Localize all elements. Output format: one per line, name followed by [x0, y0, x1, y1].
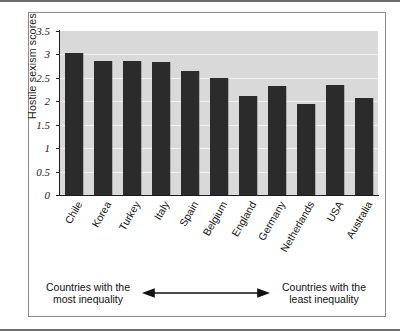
- plot-background: [60, 31, 378, 195]
- double-headed-arrow-icon: [142, 287, 270, 299]
- y-axis-line: [59, 30, 60, 196]
- bar-series: [60, 31, 378, 195]
- x-tick-label: Belgium: [200, 199, 229, 238]
- bar-korea: [94, 61, 112, 195]
- bar-england: [239, 96, 257, 195]
- x-tick-cell: England: [239, 197, 257, 269]
- x-tick-label: Chile: [62, 199, 84, 226]
- x-tick-label: Australia: [343, 199, 374, 240]
- x-tick-cell: Turkey: [123, 197, 141, 269]
- x-tick-label: Germany: [255, 199, 287, 242]
- x-tick-cell: Chile: [65, 197, 83, 269]
- x-tick-label: Turkey: [116, 199, 142, 232]
- bar-belgium: [210, 78, 228, 195]
- annotation-left-line2: most inequality: [40, 293, 136, 306]
- annotation-left-line1: Countries with the: [40, 281, 136, 294]
- y-tick-label: 0.5: [36, 166, 50, 178]
- bar-chile: [65, 53, 83, 195]
- x-tick-cell: Germany: [268, 197, 286, 269]
- x-tick-label: Spain: [177, 199, 201, 228]
- bar-netherlands: [297, 104, 315, 195]
- x-tick-cell: Italy: [152, 197, 170, 269]
- y-tick-label: 1.5: [36, 119, 50, 131]
- annotation-right-line1: Countries with the: [276, 281, 372, 294]
- bar-usa: [326, 85, 344, 195]
- bar-turkey: [123, 61, 141, 195]
- x-axis-labels: ChileKoreaTurkeyItalySpainBelgiumEngland…: [60, 197, 378, 269]
- y-tick-label: 0: [45, 189, 51, 201]
- annotation-left: Countries with the most inequality: [40, 281, 136, 306]
- y-tick-label: 3.5: [36, 25, 50, 37]
- y-tick-label: 2.5: [36, 72, 50, 84]
- inequality-annotation: Countries with the most inequality Count…: [40, 276, 372, 310]
- x-tick-label: Italy: [152, 199, 172, 222]
- plot-area: [60, 31, 378, 195]
- y-tick-label: 1: [45, 142, 51, 154]
- y-tick-label: 3: [45, 48, 51, 60]
- bar-australia: [355, 98, 373, 195]
- annotation-right-line2: least inequality: [276, 293, 372, 306]
- x-tick-label: England: [229, 199, 259, 238]
- x-tick-cell: Korea: [94, 197, 112, 269]
- bar-spain: [181, 71, 199, 195]
- x-tick-cell: Belgium: [210, 197, 228, 269]
- x-tick-cell: USA: [326, 197, 344, 269]
- x-axis-line: [59, 195, 379, 196]
- x-tick-label: Korea: [89, 199, 113, 229]
- figure-container: Hostile sexism scores 3.532.521.510.50 C…: [0, 0, 400, 331]
- y-tick-label: 2: [45, 95, 51, 107]
- x-tick-cell: Netherlands: [297, 197, 315, 269]
- bar-italy: [152, 62, 170, 195]
- x-tick-cell: Australia: [355, 197, 373, 269]
- x-tick-cell: Spain: [181, 197, 199, 269]
- annotation-right: Countries with the least inequality: [276, 281, 372, 306]
- top-rule: [0, 0, 400, 2]
- bar-germany: [268, 86, 286, 195]
- x-tick-label: USA: [324, 199, 345, 224]
